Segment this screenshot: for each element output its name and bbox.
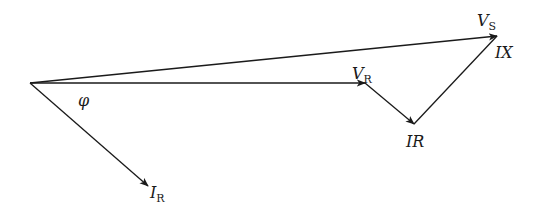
ir-drop-phasor: [365, 83, 414, 124]
ir-drop-label: IR: [405, 132, 424, 151]
ir-current-label: IR: [149, 183, 165, 205]
phasor-diagram-svg: VS IX VR IR IR φ: [0, 0, 547, 213]
phi-angle-label: φ: [78, 91, 90, 110]
vs-label: VS: [477, 11, 496, 33]
phasor-diagram: VS IX VR IR IR φ: [0, 0, 547, 213]
ix-drop-phasor: [414, 36, 497, 124]
vs-phasor: [30, 36, 497, 83]
ix-label: IX: [494, 43, 513, 62]
vr-label: VR: [352, 64, 373, 86]
